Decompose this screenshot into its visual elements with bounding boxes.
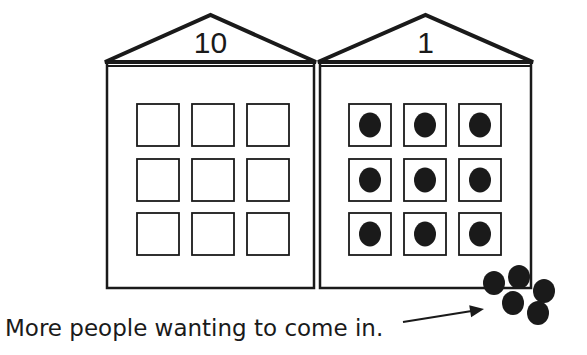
- window: [349, 104, 391, 146]
- caption-text: More people wanting to come in.: [5, 315, 383, 341]
- window: [459, 159, 501, 201]
- window: [404, 159, 446, 201]
- window: [404, 213, 446, 255]
- person-dot-icon: [483, 271, 505, 295]
- window: [459, 213, 501, 255]
- window: [137, 213, 179, 255]
- person-dot-icon: [527, 301, 549, 325]
- window: [349, 159, 391, 201]
- person-dot-icon: [508, 265, 530, 289]
- person-dot-icon: [359, 168, 381, 193]
- person-dot-icon: [414, 168, 436, 193]
- window: [137, 104, 179, 146]
- window: [192, 159, 234, 201]
- person-dot-icon: [533, 279, 555, 303]
- arrow-icon: [403, 305, 484, 322]
- person-dot-icon: [469, 168, 491, 193]
- place-value-label: 10: [194, 26, 227, 59]
- window: [137, 159, 179, 201]
- person-dot-icon: [359, 222, 381, 247]
- person-dot-icon: [502, 291, 524, 315]
- window: [247, 213, 289, 255]
- person-dot-icon: [359, 113, 381, 138]
- window: [192, 104, 234, 146]
- house-ones: 1: [318, 15, 533, 288]
- house-tens: 10: [105, 15, 316, 288]
- window: [192, 213, 234, 255]
- place-value-houses-diagram: 101 More people wanting to come in.: [0, 0, 587, 355]
- waiting-people-cluster: [483, 265, 555, 325]
- person-dot-icon: [469, 222, 491, 247]
- window: [247, 159, 289, 201]
- person-dot-icon: [414, 113, 436, 138]
- window: [349, 213, 391, 255]
- window: [247, 104, 289, 146]
- person-dot-icon: [414, 222, 436, 247]
- window: [459, 104, 501, 146]
- houses: 101: [105, 15, 533, 288]
- person-dot-icon: [469, 113, 491, 138]
- place-value-label: 1: [417, 26, 434, 59]
- window: [404, 104, 446, 146]
